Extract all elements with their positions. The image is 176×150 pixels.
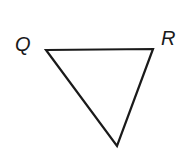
- vertex-label-r: R: [161, 28, 175, 48]
- triangle-diagram: Q R: [0, 0, 176, 150]
- vertex-label-q: Q: [15, 34, 31, 54]
- triangle-shape: [0, 0, 176, 150]
